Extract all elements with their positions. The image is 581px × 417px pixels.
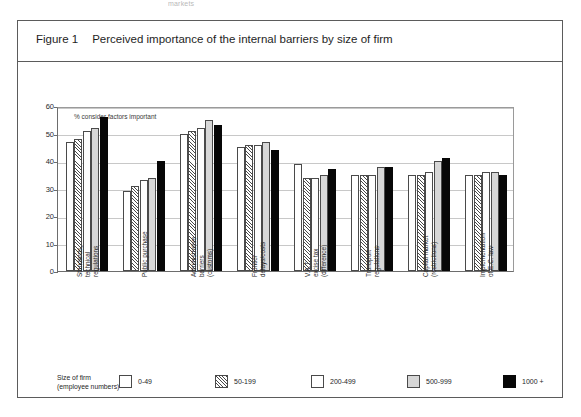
bar xyxy=(180,134,188,272)
bar xyxy=(157,161,165,271)
x-tick-label-line: (customs) xyxy=(206,237,214,277)
x-tick-label: V.A.T.excise tax(difference) xyxy=(304,245,329,277)
bar xyxy=(214,125,222,271)
x-tick-label: Administrativebarriers(customs) xyxy=(190,237,215,277)
x-tick-label-line: (restrictions) xyxy=(431,236,439,277)
y-tick-label: 50 xyxy=(30,131,54,139)
x-tick-label-line: delays/costs xyxy=(259,242,267,277)
x-tick-label-line: regulations xyxy=(92,246,100,277)
figure-number: Figure 1 xyxy=(36,33,78,45)
figure-title-bar: Figure 1Perceived importance of the inte… xyxy=(18,21,562,62)
bar xyxy=(66,142,74,271)
bar xyxy=(328,169,336,271)
x-tick-label-line: Administrative xyxy=(190,237,198,277)
y-tick-label: 30 xyxy=(30,186,54,194)
legend-swatch xyxy=(503,375,516,388)
cropped-top-caption: markets xyxy=(168,0,238,9)
legend-swatch xyxy=(311,375,324,388)
x-tick-label-line: Public purchase xyxy=(141,232,149,277)
bar xyxy=(123,191,131,271)
x-tick-label-line: regulations xyxy=(373,246,381,277)
legend-title: Size of firm(employee numbers) xyxy=(57,374,119,391)
y-tick-label: 0 xyxy=(30,268,54,276)
legend-title-line: (employee numbers) xyxy=(57,383,119,392)
legend-label: 500-999 xyxy=(426,378,452,385)
legend-swatch xyxy=(407,375,420,388)
x-tick-label-line: (difference) xyxy=(320,245,328,277)
legend-swatch xyxy=(119,375,132,388)
y-tick-label: 60 xyxy=(30,103,54,111)
x-tick-label: Capital market(restrictions) xyxy=(422,236,438,277)
bar xyxy=(442,158,450,271)
x-axis-category-labels: Standards,technicalregulationsPublic pur… xyxy=(57,273,514,351)
bar xyxy=(294,164,302,271)
y-tick-label: 40 xyxy=(30,158,54,166)
bar xyxy=(237,147,245,271)
bar xyxy=(271,150,279,271)
bar xyxy=(351,175,359,271)
figure-frame: Figure 1Perceived importance of the inte… xyxy=(17,20,563,398)
x-tick-label: Transportregulations xyxy=(365,246,381,277)
legend-label: 50-199 xyxy=(234,378,256,385)
x-tick-label-line: of E.C. law xyxy=(488,233,496,277)
x-tick-label: Implementationof E.C. law xyxy=(479,233,495,277)
y-tick-label: 10 xyxy=(30,241,54,249)
bar xyxy=(408,175,416,271)
figure-title-text: Perceived importance of the internal bar… xyxy=(92,33,392,45)
page-title: Figure 1Perceived importance of the inte… xyxy=(36,33,393,45)
x-tick-label-line: barriers xyxy=(198,237,206,277)
bar xyxy=(100,117,108,271)
x-tick-label: Frontierdelays/costs xyxy=(251,242,267,277)
bar xyxy=(385,167,393,272)
x-tick-label: Public purchase xyxy=(141,232,149,277)
legend-label: 200-499 xyxy=(330,378,356,385)
x-tick-label-line: excise tax xyxy=(312,245,320,277)
x-tick-label-line: technical xyxy=(84,246,92,277)
bar xyxy=(131,186,139,271)
x-tick-label: Standards,technicalregulations xyxy=(76,246,101,277)
x-tick-label-line: Frontier xyxy=(251,242,259,277)
bar xyxy=(465,175,473,271)
x-tick-label-line: Standards, xyxy=(76,246,84,277)
y-tick-label: 20 xyxy=(30,213,54,221)
x-tick-label-line: V.A.T. xyxy=(304,245,312,277)
bar xyxy=(499,175,507,271)
chart-legend: Size of firm(employee numbers) 0-4950-19… xyxy=(57,373,557,399)
legend-swatch xyxy=(215,375,228,388)
x-tick-label-line: Transport xyxy=(365,246,373,277)
legend-title-line: Size of firm xyxy=(57,374,119,383)
legend-label: 0-49 xyxy=(138,378,152,385)
bar xyxy=(148,178,156,272)
y-axis-ticks: 0102030405060 xyxy=(28,107,54,272)
plot-area xyxy=(57,107,514,272)
legend-label: 1000 + xyxy=(522,378,544,385)
